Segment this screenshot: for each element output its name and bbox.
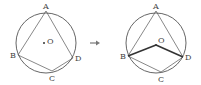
left-label-D: D bbox=[75, 54, 81, 63]
right-figure-with-center-lines: ABCDO bbox=[120, 2, 191, 84]
right-radius-OD bbox=[156, 45, 183, 57]
arrow-head-icon bbox=[96, 41, 100, 46]
right-label-D: D bbox=[185, 53, 191, 62]
left-segment-AB bbox=[18, 11, 46, 55]
geometry-diagram: ABCDO ABCDO bbox=[0, 0, 201, 85]
right-circle bbox=[126, 13, 186, 73]
right-label-B: B bbox=[120, 52, 126, 61]
left-label-B: B bbox=[10, 51, 16, 60]
left-label-O: O bbox=[47, 37, 54, 46]
right-radius-BO bbox=[128, 45, 156, 56]
right-segment-CD bbox=[161, 57, 183, 72]
left-center-point bbox=[43, 42, 45, 44]
transformation-arrow bbox=[90, 41, 100, 46]
left-label-C: C bbox=[49, 74, 55, 83]
left-segment-AD bbox=[46, 11, 73, 58]
right-segment-AB bbox=[128, 11, 156, 56]
right-label-O: O bbox=[158, 36, 165, 45]
right-center-point bbox=[155, 44, 157, 46]
right-segment-AD bbox=[156, 11, 183, 57]
left-figure-inscribed-quadrilateral: ABCDO bbox=[10, 2, 81, 83]
right-label-A: A bbox=[152, 2, 159, 11]
right-label-C: C bbox=[158, 75, 164, 84]
left-circle bbox=[16, 13, 76, 73]
right-segment-BC bbox=[128, 56, 161, 72]
left-segment-CD bbox=[52, 58, 73, 71]
left-label-A: A bbox=[42, 2, 49, 11]
